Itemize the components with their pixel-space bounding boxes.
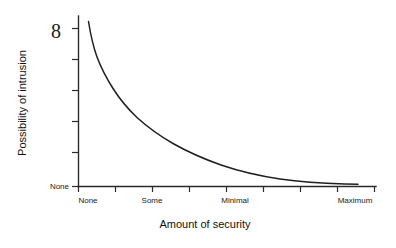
x-axis-tick-label-maximum: Maximum bbox=[338, 196, 373, 205]
y-axis-title: Possibility of intrusion bbox=[16, 50, 28, 156]
y-axis-tick-label-none: None bbox=[50, 182, 70, 191]
chart-canvas: 8 None None Some Minimal Maximum Amount … bbox=[0, 0, 396, 248]
y-axis-infinity-label: 8 bbox=[51, 20, 61, 42]
x-axis-tick-label-some: Some bbox=[142, 196, 163, 205]
x-axis-tick-label-minimal: Minimal bbox=[221, 196, 249, 205]
chart-figure: 8 None None Some Minimal Maximum Amount … bbox=[0, 0, 396, 248]
x-axis-tick-label-none: None bbox=[78, 196, 98, 205]
x-axis-title: Amount of security bbox=[159, 218, 251, 230]
